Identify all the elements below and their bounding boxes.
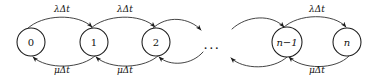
backward-rate-label-n-n-1: μΔt [309,65,325,75]
state-label-0: 0 [28,37,34,48]
forward-rate-label-n-1-n: λΔt [308,4,325,14]
state-node-n[interactable]: n [333,28,361,56]
state-node-n-minus-1[interactable]: n−1 [272,27,302,57]
state-node-1[interactable]: 1 [80,28,108,56]
forward-arc-ellipsis-to-n-minus-1 [232,18,284,29]
state-label-1: 1 [91,37,97,48]
diagram-canvas: 0 1 2 n−1 n ... λΔt λΔt λΔt μΔt μΔt μΔt [0,0,374,77]
backward-rate-label-2-1: μΔt [117,65,133,75]
state-label-2: 2 [153,37,159,48]
state-label-n-minus-1: n−1 [276,37,297,48]
state-node-0[interactable]: 0 [17,28,45,56]
backward-rate-label-1-0: μΔt [54,65,70,75]
state-node-2[interactable]: 2 [142,28,170,56]
forward-arc-n-minus-1-to-n [283,17,346,28]
backward-arc-group [33,52,349,67]
backward-arc-ellipsis-to-2 [159,52,203,63]
markov-chain-diagram: 0 1 2 n−1 n ... λΔt λΔt λΔt μΔt μΔt μΔt [0,0,374,77]
ellipsis-label: ... [204,37,221,52]
state-label-n: n [344,37,350,48]
forward-rate-label-1-2: λΔt [116,4,133,14]
forward-arc-0-to-1 [27,17,92,29]
forward-rate-label-0-1: λΔt [53,4,70,14]
backward-arc-n-minus-1-to-ellipsis [231,57,287,67]
forward-arc-group [27,17,346,30]
forward-arc-1-to-2 [90,17,155,29]
